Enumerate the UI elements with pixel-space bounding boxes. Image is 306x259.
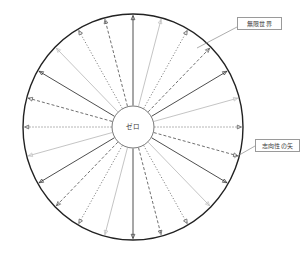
callout-infinite-world[interactable]: 無限世界: [237, 17, 282, 30]
spoke-dashed-19: [28, 98, 112, 121]
spoke-solid-light-21: [56, 48, 118, 112]
callout-intentionality-arrow[interactable]: 志向性の矢: [255, 139, 300, 152]
leader-line-intentionality-arrow: [234, 146, 255, 158]
leader-line-infinite-world: [197, 27, 237, 48]
hub-zero-label: ゼロ: [126, 122, 140, 130]
callout-intentionality-arrow-label: 志向性の矢: [262, 143, 293, 149]
spoke-arrowhead-19: [28, 97, 33, 101]
spoke-arrowhead-10: [184, 219, 188, 224]
spoke-solid-light-1: [139, 19, 162, 106]
spoke-solid-dark-16: [39, 138, 114, 183]
spoke-solid-light-13: [105, 148, 128, 235]
spoke-dotted-2: [144, 30, 188, 108]
spoke-dashed-23: [105, 19, 128, 106]
spoke-dotted-14: [79, 146, 123, 224]
spoke-solid-dark-8: [152, 138, 227, 183]
spoke-arrowhead-22: [79, 30, 83, 35]
spoke-dashed-11: [139, 148, 162, 235]
spoke-solid-light-9: [148, 142, 210, 206]
spoke-arrowhead-14: [79, 219, 83, 224]
spoke-arrowhead-13: [104, 230, 108, 235]
callout-leader-lines-layer: [197, 27, 255, 158]
radial-diagram-canvas: ゼロ 無限世界 志向性の矢: [0, 0, 306, 259]
spoke-solid-dark-20: [39, 71, 114, 116]
spoke-arrowhead-1: [158, 19, 162, 24]
spoke-dashed-15: [56, 142, 118, 206]
spoke-dashed-3: [148, 48, 210, 112]
radial-diagram-svg: ゼロ: [0, 0, 306, 259]
spoke-arrowhead-11: [158, 230, 162, 235]
spoke-arrowhead-23: [104, 19, 108, 24]
spoke-solid-light-17: [28, 133, 112, 156]
callout-infinite-world-label: 無限世界: [247, 21, 272, 27]
spoke-dashed-7: [154, 133, 238, 156]
spoke-solid-light-5: [154, 98, 238, 121]
spoke-solid-dark-4: [152, 71, 227, 116]
spoke-dotted-10: [144, 146, 188, 224]
spoke-dotted-22: [79, 30, 123, 108]
spoke-arrowhead-2: [184, 30, 188, 35]
